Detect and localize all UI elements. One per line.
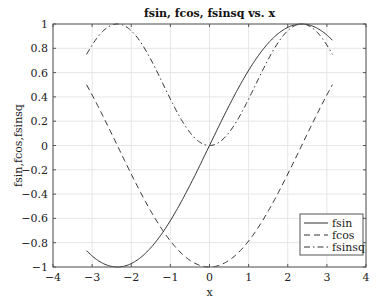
y-tick-label: 0.8 bbox=[31, 42, 49, 55]
y-tick-label: 0.4 bbox=[31, 91, 49, 104]
y-tick-label: 0 bbox=[41, 140, 48, 153]
x-tick-label: 4 bbox=[363, 271, 370, 284]
legend: fsinfcosfsinsq bbox=[300, 214, 365, 255]
x-tick-label: 0 bbox=[206, 271, 213, 284]
y-tick-label: −1 bbox=[32, 261, 48, 274]
y-tick-label: 1 bbox=[41, 18, 48, 31]
x-tick-label: 2 bbox=[284, 271, 291, 284]
y-axis-label: fsin,fcos,fsinsq bbox=[12, 104, 25, 187]
y-tick-label: −0.8 bbox=[21, 237, 48, 250]
y-tick-label: 0.6 bbox=[31, 67, 49, 80]
x-tick-label: 1 bbox=[245, 271, 252, 284]
y-tick-label: −0.4 bbox=[21, 188, 48, 201]
legend-label: fsinsq bbox=[332, 241, 365, 254]
line-chart: −4−3−2−101234−1−0.8−0.6−0.4−0.200.20.40.… bbox=[0, 0, 379, 305]
x-tick-label: −2 bbox=[123, 271, 139, 284]
x-tick-label: −1 bbox=[162, 271, 178, 284]
y-tick-label: −0.2 bbox=[21, 164, 48, 177]
y-tick-label: 0.2 bbox=[31, 115, 49, 128]
x-tick-label: −3 bbox=[84, 271, 100, 284]
y-tick-label: −0.6 bbox=[21, 212, 48, 225]
x-tick-label: 3 bbox=[323, 271, 330, 284]
chart-title: fsin, fcos, fsinsq vs. x bbox=[144, 7, 275, 20]
x-axis-label: x bbox=[206, 286, 213, 299]
